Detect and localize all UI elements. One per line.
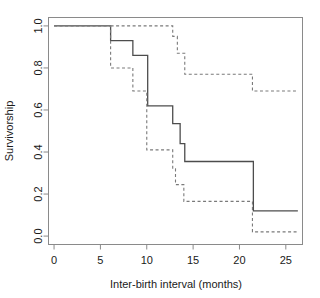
y-tick-label: 0.0 (33, 228, 45, 243)
y-axis-title: Survivorship (3, 101, 15, 162)
survivorship-chart-figure: 0510152025 0.00.20.40.60.81.0 Inter-birt… (0, 0, 320, 298)
x-tick-label: 0 (51, 254, 57, 266)
x-tick-label: 25 (280, 254, 292, 266)
y-tick-label: 0.2 (33, 186, 45, 201)
x-tick-label: 20 (233, 254, 245, 266)
y-tick-label: 1.0 (33, 18, 45, 33)
x-tick-label: 10 (141, 254, 153, 266)
x-tick-label: 5 (97, 254, 103, 266)
x-axis-title: Inter-birth interval (months) (110, 278, 242, 290)
y-tick-label: 0.8 (33, 60, 45, 75)
chart-canvas: 0510152025 0.00.20.40.60.81.0 Inter-birt… (0, 0, 320, 298)
y-tick-label: 0.4 (33, 144, 45, 159)
x-tick-label: 15 (187, 254, 199, 266)
y-tick-label: 0.6 (33, 102, 45, 117)
